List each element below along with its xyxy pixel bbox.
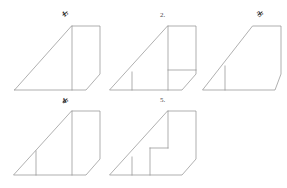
figure-3-shape <box>203 26 281 90</box>
figure-4-outline <box>14 111 100 175</box>
figure-5-outline <box>110 111 196 175</box>
figure-5-label: 5. <box>160 96 165 104</box>
figure-2-shape <box>110 26 196 90</box>
figure-2-outline <box>110 26 196 90</box>
figure-sheet: 1. 2. 3. 4. 5. <box>0 0 287 188</box>
figure-3-outline <box>203 26 281 90</box>
figure-5-shape <box>110 111 196 175</box>
figure-shapes-layer <box>0 0 287 188</box>
figure-1-outline <box>14 26 100 90</box>
figure-2-label: 2. <box>160 11 165 19</box>
figure-4-shape <box>14 111 100 175</box>
figure-1-shape <box>14 26 100 90</box>
